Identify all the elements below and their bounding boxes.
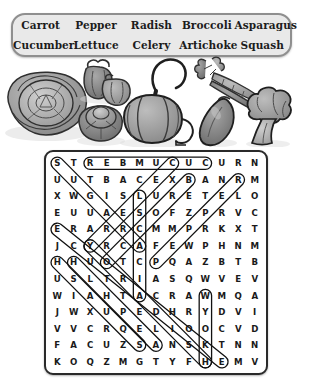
letter-cell[interactable]: B — [181, 172, 197, 189]
letter-cell[interactable]: R — [164, 188, 180, 205]
letter-cell[interactable]: U — [98, 337, 114, 354]
letter-cell[interactable]: R — [230, 155, 246, 172]
letter-cell[interactable]: H — [98, 287, 114, 304]
letter-cell[interactable]: U — [214, 155, 230, 172]
letter-cell[interactable]: F — [148, 238, 164, 255]
letter-cell[interactable]: T — [246, 221, 263, 238]
letter-cell[interactable]: C — [214, 320, 230, 337]
letter-cell[interactable]: A — [148, 337, 164, 354]
letter-cell[interactable]: Q — [82, 353, 98, 370]
letter-cell[interactable]: P — [197, 205, 213, 222]
letter-cell[interactable]: J — [49, 238, 65, 255]
letter-cell[interactable]: U — [98, 304, 114, 321]
letter-cell[interactable]: V — [230, 205, 246, 222]
letter-cell[interactable]: B — [98, 172, 114, 189]
letter-cell[interactable]: C — [82, 337, 98, 354]
letter-cell[interactable]: B — [214, 254, 230, 271]
letter-cell[interactable]: C — [164, 155, 180, 172]
letter-cell[interactable]: R — [181, 304, 197, 321]
letter-cell[interactable]: L — [148, 320, 164, 337]
letter-cell[interactable]: H — [65, 254, 81, 271]
letter-cell[interactable]: T — [65, 155, 81, 172]
letter-cell[interactable]: F — [49, 337, 65, 354]
letter-cell[interactable]: P — [197, 238, 213, 255]
letter-cell[interactable]: W — [197, 271, 213, 288]
letter-cell[interactable]: I — [131, 271, 147, 288]
letter-cell[interactable]: A — [98, 205, 114, 222]
letter-cell[interactable]: R — [82, 155, 98, 172]
letter-cell[interactable]: E — [164, 238, 180, 255]
letter-cell[interactable]: U — [49, 172, 65, 189]
letter-cell[interactable]: C — [246, 205, 263, 222]
letter-cell[interactable]: C — [82, 320, 98, 337]
letter-cell[interactable]: E — [98, 155, 114, 172]
letter-cell[interactable]: A — [131, 238, 147, 255]
letter-cell[interactable]: E — [214, 188, 230, 205]
letter-cell[interactable]: H — [164, 304, 180, 321]
letter-cell[interactable]: U — [49, 271, 65, 288]
letter-cell[interactable]: M — [131, 155, 147, 172]
letter-cell[interactable]: C — [197, 155, 213, 172]
letter-cell[interactable]: U — [65, 172, 81, 189]
letter-cell[interactable]: I — [98, 188, 114, 205]
letter-cell[interactable]: I — [164, 320, 180, 337]
letter-cell[interactable]: V — [230, 304, 246, 321]
letter-cell[interactable]: T — [82, 172, 98, 189]
letter-cell[interactable]: M — [164, 221, 180, 238]
letter-cell[interactable]: Z — [181, 205, 197, 222]
letter-cell[interactable]: D — [214, 304, 230, 321]
letter-cell[interactable]: F — [181, 353, 197, 370]
letter-cell[interactable]: A — [131, 287, 147, 304]
letter-cell[interactable]: C — [131, 172, 147, 189]
letter-cell[interactable]: H — [214, 238, 230, 255]
letter-cell[interactable]: T — [230, 254, 246, 271]
letter-cell[interactable]: A — [181, 254, 197, 271]
letter-cell[interactable]: N — [214, 172, 230, 189]
letter-cell[interactable]: E — [214, 353, 230, 370]
letter-cell[interactable]: S — [131, 205, 147, 222]
letter-cell[interactable]: R — [98, 238, 114, 255]
letter-cell[interactable]: Z — [115, 337, 131, 354]
letter-cell[interactable]: Q — [230, 287, 246, 304]
letter-cell[interactable]: M — [246, 238, 263, 255]
letter-cell[interactable]: L — [230, 188, 246, 205]
letter-cell[interactable]: R — [65, 221, 81, 238]
letter-cell[interactable]: A — [148, 271, 164, 288]
letter-cell[interactable]: E — [49, 221, 65, 238]
letter-cell[interactable]: O — [65, 353, 81, 370]
letter-cell[interactable]: T — [115, 254, 131, 271]
letter-cell[interactable]: S — [115, 188, 131, 205]
letter-cell[interactable]: U — [65, 205, 81, 222]
letter-cell[interactable]: T — [214, 337, 230, 354]
letter-cell[interactable]: Q — [164, 254, 180, 271]
letter-cell[interactable]: A — [197, 172, 213, 189]
letter-cell[interactable]: S — [131, 337, 147, 354]
letter-cell[interactable]: M — [148, 221, 164, 238]
letter-cell[interactable]: U — [148, 155, 164, 172]
letter-cell[interactable]: R — [115, 271, 131, 288]
letter-cell[interactable]: T — [197, 188, 213, 205]
letter-cell[interactable]: U — [181, 155, 197, 172]
letter-cell[interactable]: S — [65, 271, 81, 288]
letter-cell[interactable]: R — [164, 287, 180, 304]
letter-cell[interactable]: N — [230, 238, 246, 255]
letter-cell[interactable]: V — [65, 320, 81, 337]
letter-cell[interactable]: V — [49, 320, 65, 337]
letter-cell[interactable]: C — [115, 238, 131, 255]
letter-cell[interactable]: A — [65, 337, 81, 354]
letter-cell[interactable]: Y — [164, 353, 180, 370]
letter-cell[interactable]: G — [82, 188, 98, 205]
letter-cell[interactable]: L — [82, 271, 98, 288]
letter-cell[interactable]: O — [181, 320, 197, 337]
letter-cell[interactable]: B — [246, 254, 263, 271]
letter-cell[interactable]: S — [49, 155, 65, 172]
letter-cell[interactable]: D — [246, 320, 263, 337]
letter-cell[interactable]: H — [197, 353, 213, 370]
letter-cell[interactable]: U — [82, 254, 98, 271]
letter-cell[interactable]: C — [65, 238, 81, 255]
letter-cell[interactable]: W — [197, 287, 213, 304]
letter-cell[interactable]: B — [115, 155, 131, 172]
letter-cell[interactable]: R — [197, 221, 213, 238]
letter-cell[interactable]: K — [214, 221, 230, 238]
letter-cell[interactable]: K — [197, 337, 213, 354]
